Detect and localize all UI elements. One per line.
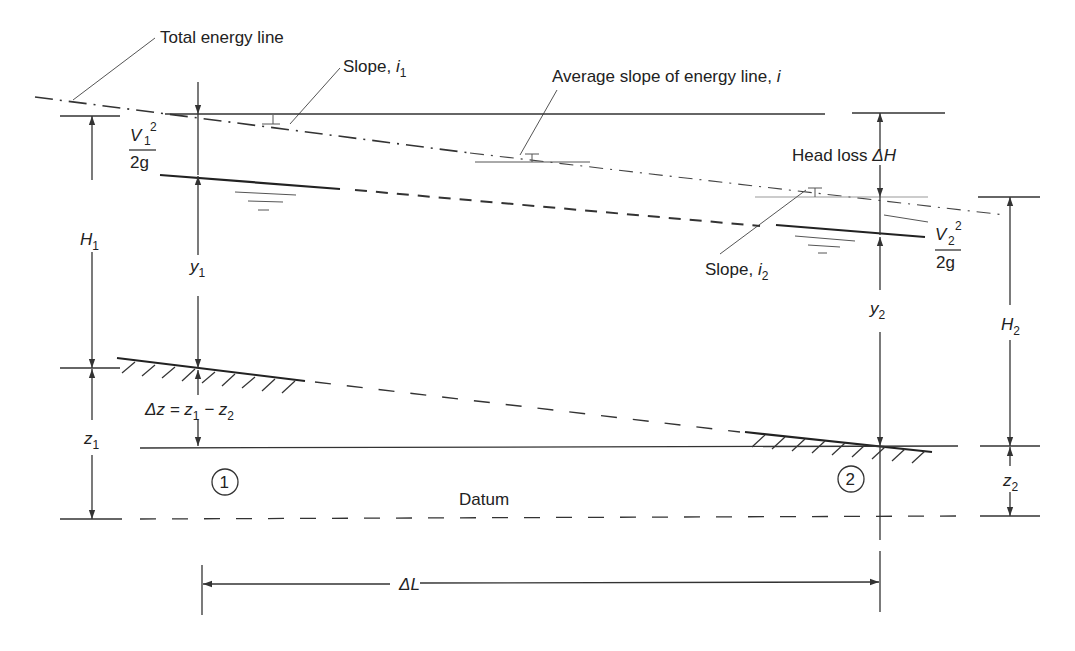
H1-label: H1 [80,230,99,253]
H2-label: H2 [1001,315,1020,338]
head-loss-label: Head loss ΔH [792,146,897,165]
water-surface-symbol-1 [235,192,296,210]
slope-i2-label: Slope, i2 [705,260,769,283]
svg-text:2: 2 [150,120,157,134]
slope-i1-label: Slope, i1 [343,57,407,80]
y2-label: y2 [869,299,886,322]
delta-z-label: Δz = z1 − z2 [144,400,234,423]
bed-2-reference-line [140,446,958,448]
channel-bed-section-2 [745,432,932,463]
svg-text:2: 2 [948,234,955,248]
datum-line [140,516,958,519]
z2-label: z2 [1002,471,1019,494]
section-2-marker: 2 [838,466,864,492]
total-energy-line-leader [73,38,155,100]
slope-i2-marker [720,188,822,254]
svg-text:V: V [935,225,948,244]
y1-label: y1 [189,257,206,280]
energy-line-diagram: Total energy line Slope, i1 Average slop… [0,0,1075,651]
svg-text:1: 1 [144,134,151,148]
channel-bed-dashed [315,382,740,432]
section-1-marker: 1 [212,469,238,495]
svg-text:2g: 2g [130,153,149,172]
velocity-head-1-label: V 1 2 2g [129,120,157,172]
delta-L-arrow-right [420,582,879,583]
svg-text:1: 1 [220,473,229,492]
slope-i1-marker [262,68,340,124]
channel-bed-section-1 [117,358,305,393]
svg-text:2: 2 [955,219,962,233]
datum-label: Datum [459,490,509,509]
svg-text:2: 2 [846,470,855,489]
z1-label: z1 [83,429,100,452]
avg-slope-label: Average slope of energy line, i [552,67,782,86]
water-surface [160,175,928,237]
water-surface-symbol-2 [795,236,855,253]
total-energy-line-label: Total energy line [160,28,284,47]
velocity-head-2-label: V 2 2 2g [935,219,962,272]
avg-slope-marker [475,90,590,162]
delta-L-label: ΔL [398,575,420,594]
svg-text:2g: 2g [936,253,955,272]
svg-text:V: V [130,126,143,145]
